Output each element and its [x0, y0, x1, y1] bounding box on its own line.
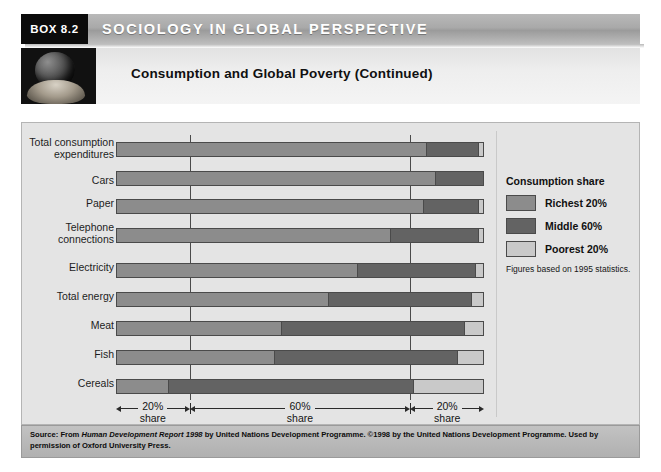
bar-segment-poorest — [478, 143, 483, 156]
legend-item-poorest: Poorest 20% — [506, 241, 638, 257]
bar-segment-middle — [426, 143, 478, 156]
bar-segment-poorest — [478, 200, 483, 213]
box-header: BOX 8.2 SOCIOLOGY IN GLOBAL PERSPECTIVE — [21, 14, 640, 44]
bar-row — [116, 142, 484, 157]
axis-tick — [410, 403, 411, 414]
bar-segment-poorest — [475, 264, 483, 277]
bar-row — [116, 171, 484, 186]
category-label: Cereals — [22, 378, 114, 390]
source-prefix: Source: From — [30, 430, 81, 439]
page-title: Consumption and Global Poverty (Continue… — [131, 66, 433, 81]
bar-segment-middle — [435, 172, 483, 185]
bar-row — [116, 321, 484, 336]
subheader: Consumption and Global Poverty (Continue… — [21, 48, 640, 104]
bar-segment-middle — [390, 229, 478, 242]
hands-shape — [27, 80, 85, 104]
bar-segment-richest — [117, 293, 328, 306]
category-label: Cars — [22, 175, 114, 187]
category-label: Electricity — [22, 262, 114, 274]
bar-row — [116, 199, 484, 214]
bar-row — [116, 228, 484, 243]
legend-label-poorest: Poorest 20% — [545, 243, 608, 255]
legend-item-middle: Middle 60% — [506, 218, 638, 234]
bar-segment-richest — [117, 229, 390, 242]
bar-row — [116, 292, 484, 307]
category-label: Telephone connections — [22, 222, 114, 245]
bar-segment-middle — [423, 200, 479, 213]
bar-segment-richest — [117, 351, 274, 364]
legend-swatch-poorest — [506, 241, 536, 257]
category-label: Total energy — [22, 291, 114, 303]
category-label: Meat — [22, 320, 114, 332]
source-text: Source: From Human Development Report 19… — [30, 430, 631, 451]
bar-segment-richest — [117, 322, 281, 335]
bar-segment-middle — [168, 380, 413, 393]
bar-row — [116, 379, 484, 394]
box-banner-title: SOCIOLOGY IN GLOBAL PERSPECTIVE — [88, 14, 640, 44]
chart-legend: Consumption share Richest 20% Middle 60%… — [506, 175, 638, 275]
source-band: Source: From Human Development Report 19… — [21, 425, 640, 458]
bar-segment-richest — [117, 380, 168, 393]
legend-label-richest: Richest 20% — [545, 197, 607, 209]
category-label: Total consumption expenditures — [22, 137, 114, 160]
bar-segment-middle — [281, 322, 464, 335]
bar-segment-poorest — [457, 351, 483, 364]
bar-row — [116, 263, 484, 278]
bar-segment-richest — [117, 264, 357, 277]
legend-divider — [496, 131, 497, 417]
bar-segment-middle — [274, 351, 457, 364]
bar-segment-poorest — [471, 293, 483, 306]
bar-row — [116, 350, 484, 365]
legend-item-richest: Richest 20% — [506, 195, 638, 211]
axis-segment-label: 60%share — [190, 400, 411, 424]
category-label: Fish — [22, 349, 114, 361]
legend-label-middle: Middle 60% — [545, 220, 602, 232]
source-title: Human Development Report 1998 — [81, 430, 202, 439]
bar-segment-richest — [117, 143, 426, 156]
bar-segment-poorest — [478, 229, 483, 242]
legend-note: Figures based on 1995 statistics. — [506, 264, 638, 275]
bar-segment-middle — [357, 264, 474, 277]
globe-in-hands-icon — [21, 48, 96, 104]
bar-segment-middle — [328, 293, 471, 306]
bar-segment-poorest — [413, 380, 483, 393]
axis-segment-label: 20%share — [116, 400, 190, 424]
bar-segment-richest — [117, 200, 423, 213]
axis-segment-label: 20%share — [410, 400, 484, 424]
figure-panel: Total consumption expendituresCarsPaperT… — [21, 122, 640, 425]
category-label: Paper — [22, 198, 114, 210]
legend-title: Consumption share — [506, 175, 638, 187]
bar-segment-richest — [117, 172, 435, 185]
legend-swatch-middle — [506, 218, 536, 234]
legend-swatch-richest — [506, 195, 536, 211]
bar-segment-poorest — [464, 322, 483, 335]
axis-tick — [190, 403, 191, 414]
box-number-label: BOX 8.2 — [21, 14, 88, 44]
